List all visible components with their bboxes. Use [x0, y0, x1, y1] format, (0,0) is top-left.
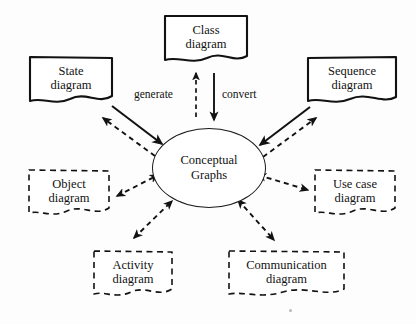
usecase-cg-edge: [258, 175, 308, 190]
node-label-class-diagram: Class diagram: [163, 23, 249, 51]
sequence-to-cg-edge: [260, 107, 310, 145]
state-to-cg-edge: [112, 106, 162, 144]
node-label-activity-diagram: Activity diagram: [92, 258, 174, 286]
scan-artifact-dot: [289, 309, 292, 312]
node-label-state-diagram: State diagram: [28, 64, 114, 92]
node-state-diagram[interactable]: State diagram: [28, 55, 114, 107]
node-label-conceptual-graphs: Conceptual Graphs: [181, 153, 238, 183]
node-conceptual-graphs[interactable]: Conceptual Graphs: [152, 128, 266, 208]
communication-cg-edge: [238, 200, 274, 240]
node-label-use-case-diagram: Use case diagram: [313, 177, 397, 205]
object-cg-edge: [117, 175, 158, 196]
node-label-communication-diagram: Communication diagram: [227, 258, 346, 286]
node-object-diagram[interactable]: Object diagram: [27, 168, 111, 220]
node-class-diagram[interactable]: Class diagram: [163, 14, 249, 66]
generate-label: generate: [134, 88, 173, 100]
activity-cg-edge: [134, 201, 172, 238]
node-activity-diagram[interactable]: Activity diagram: [92, 249, 174, 301]
node-use-case-diagram[interactable]: Use case diagram: [313, 168, 397, 220]
diagram-canvas: generate convert Class diagram State dia…: [0, 0, 416, 324]
node-label-sequence-diagram: Sequence diagram: [306, 64, 398, 92]
node-communication-diagram[interactable]: Communication diagram: [227, 249, 346, 301]
cg-to-state-edge: [103, 118, 155, 156]
convert-label: convert: [222, 88, 256, 100]
node-label-object-diagram: Object diagram: [27, 177, 111, 205]
node-sequence-diagram[interactable]: Sequence diagram: [306, 55, 398, 107]
